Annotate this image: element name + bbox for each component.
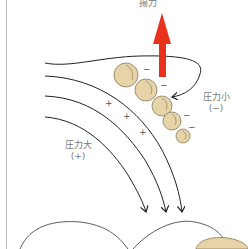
- beads: [114, 63, 190, 143]
- low-pressure-label: 圧力小: [196, 92, 236, 103]
- lift-arrow: [153, 13, 171, 77]
- streamline-3: [45, 117, 146, 212]
- lower-bead-cluster: [196, 237, 248, 249]
- plus-sign: +: [105, 98, 113, 108]
- high-pressure-label: 圧力大: [58, 140, 98, 151]
- high-pressure-sign: (+): [58, 151, 98, 162]
- lift-diagram: − − − − + + +: [0, 0, 248, 249]
- plus-sign: +: [123, 111, 131, 121]
- diagram-frame: − − − − + + + 揚力 圧力小 (−) 圧力大 (+): [0, 0, 248, 249]
- minus-sign: −: [183, 110, 191, 120]
- minus-sign: −: [160, 80, 168, 90]
- low-pressure-sign: (−): [196, 103, 236, 114]
- lift-label: 揚力: [128, 0, 168, 9]
- minus-sign: −: [188, 122, 196, 132]
- plus-sign: +: [139, 127, 147, 137]
- minus-sign: −: [143, 64, 151, 74]
- lower-curve-left: [20, 222, 128, 249]
